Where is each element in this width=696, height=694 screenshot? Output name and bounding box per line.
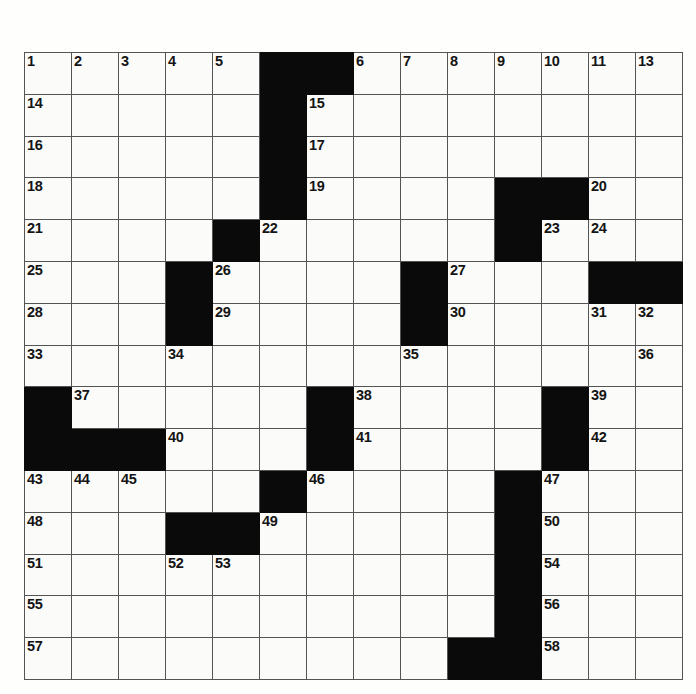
crossword-cell[interactable]	[448, 178, 495, 220]
crossword-cell[interactable]	[119, 303, 166, 345]
crossword-cell[interactable]	[636, 136, 683, 178]
crossword-cell[interactable]	[119, 596, 166, 638]
crossword-cell[interactable]	[260, 387, 307, 429]
crossword-cell-numbered[interactable]: 26	[213, 261, 260, 303]
crossword-cell[interactable]	[354, 261, 401, 303]
crossword-cell[interactable]	[636, 94, 683, 136]
crossword-cell[interactable]	[448, 387, 495, 429]
crossword-cell[interactable]	[119, 554, 166, 596]
crossword-cell-numbered[interactable]: 7	[401, 53, 448, 95]
crossword-cell[interactable]	[213, 136, 260, 178]
crossword-cell-numbered[interactable]: 45	[119, 470, 166, 512]
crossword-cell[interactable]	[495, 94, 542, 136]
crossword-cell-numbered[interactable]: 50	[542, 512, 589, 554]
crossword-cell[interactable]	[213, 470, 260, 512]
crossword-cell-numbered[interactable]: 33	[25, 345, 72, 387]
crossword-cell[interactable]	[72, 94, 119, 136]
crossword-cell-numbered[interactable]: 43	[25, 470, 72, 512]
crossword-cell-numbered[interactable]: 38	[354, 387, 401, 429]
crossword-cell-numbered[interactable]: 29	[213, 303, 260, 345]
crossword-cell[interactable]	[72, 554, 119, 596]
crossword-cell-numbered[interactable]: 48	[25, 512, 72, 554]
crossword-cell[interactable]	[213, 596, 260, 638]
crossword-cell-numbered[interactable]: 19	[307, 178, 354, 220]
crossword-cell-numbered[interactable]: 17	[307, 136, 354, 178]
crossword-cell[interactable]	[354, 94, 401, 136]
crossword-cell[interactable]	[401, 638, 448, 680]
crossword-cell[interactable]	[589, 596, 636, 638]
crossword-cell[interactable]	[72, 596, 119, 638]
crossword-cell[interactable]	[166, 596, 213, 638]
crossword-cell[interactable]	[401, 220, 448, 262]
crossword-cell[interactable]	[448, 94, 495, 136]
crossword-cell[interactable]	[72, 136, 119, 178]
crossword-cell-numbered[interactable]: 22	[260, 220, 307, 262]
crossword-cell[interactable]	[119, 638, 166, 680]
crossword-cell[interactable]	[401, 554, 448, 596]
crossword-cell-numbered[interactable]: 18	[25, 178, 72, 220]
crossword-cell-numbered[interactable]: 40	[166, 429, 213, 471]
crossword-cell-numbered[interactable]: 6	[354, 53, 401, 95]
crossword-cell[interactable]	[119, 178, 166, 220]
crossword-cell-numbered[interactable]: 4	[166, 53, 213, 95]
crossword-cell[interactable]	[636, 638, 683, 680]
crossword-cell[interactable]	[354, 345, 401, 387]
crossword-cell[interactable]	[354, 638, 401, 680]
crossword-cell[interactable]	[119, 94, 166, 136]
crossword-cell[interactable]	[589, 638, 636, 680]
crossword-cell-numbered[interactable]: 35	[401, 345, 448, 387]
crossword-cell[interactable]	[354, 136, 401, 178]
crossword-cell-numbered[interactable]: 52	[166, 554, 213, 596]
crossword-cell[interactable]	[495, 387, 542, 429]
crossword-cell-numbered[interactable]: 56	[542, 596, 589, 638]
crossword-cell[interactable]	[166, 136, 213, 178]
crossword-cell-numbered[interactable]: 37	[72, 387, 119, 429]
crossword-cell[interactable]	[213, 429, 260, 471]
crossword-cell[interactable]	[495, 136, 542, 178]
crossword-cell[interactable]	[119, 261, 166, 303]
crossword-cell[interactable]	[260, 261, 307, 303]
crossword-cell-numbered[interactable]: 16	[25, 136, 72, 178]
crossword-cell[interactable]	[589, 94, 636, 136]
crossword-cell[interactable]	[213, 178, 260, 220]
crossword-cell[interactable]	[119, 387, 166, 429]
crossword-cell-numbered[interactable]: 14	[25, 94, 72, 136]
crossword-cell[interactable]	[166, 470, 213, 512]
crossword-cell[interactable]	[166, 220, 213, 262]
crossword-cell[interactable]	[72, 303, 119, 345]
crossword-cell[interactable]	[213, 638, 260, 680]
crossword-cell[interactable]	[307, 345, 354, 387]
crossword-cell-numbered[interactable]: 23	[542, 220, 589, 262]
crossword-cell[interactable]	[401, 178, 448, 220]
crossword-cell[interactable]	[636, 220, 683, 262]
crossword-cell[interactable]	[401, 596, 448, 638]
crossword-cell[interactable]	[448, 345, 495, 387]
crossword-cell[interactable]	[166, 178, 213, 220]
crossword-cell[interactable]	[354, 554, 401, 596]
crossword-cell-numbered[interactable]: 2	[72, 53, 119, 95]
crossword-cell[interactable]	[448, 596, 495, 638]
crossword-cell-numbered[interactable]: 21	[25, 220, 72, 262]
crossword-cell[interactable]	[636, 387, 683, 429]
crossword-cell-numbered[interactable]: 39	[589, 387, 636, 429]
crossword-cell[interactable]	[260, 596, 307, 638]
crossword-cell[interactable]	[542, 94, 589, 136]
crossword-cell[interactable]	[542, 261, 589, 303]
crossword-cell[interactable]	[448, 220, 495, 262]
crossword-cell[interactable]	[260, 303, 307, 345]
crossword-cell-numbered[interactable]: 49	[260, 512, 307, 554]
crossword-cell[interactable]	[72, 261, 119, 303]
crossword-cell-numbered[interactable]: 28	[25, 303, 72, 345]
crossword-cell-numbered[interactable]: 36	[636, 345, 683, 387]
crossword-cell[interactable]	[354, 178, 401, 220]
crossword-cell[interactable]	[636, 429, 683, 471]
crossword-cell[interactable]	[72, 178, 119, 220]
crossword-cell[interactable]	[636, 512, 683, 554]
crossword-cell[interactable]	[636, 470, 683, 512]
crossword-cell[interactable]	[72, 512, 119, 554]
crossword-cell[interactable]	[119, 345, 166, 387]
crossword-cell[interactable]	[166, 387, 213, 429]
crossword-cell-numbered[interactable]: 42	[589, 429, 636, 471]
crossword-cell[interactable]	[166, 638, 213, 680]
crossword-cell[interactable]	[354, 220, 401, 262]
